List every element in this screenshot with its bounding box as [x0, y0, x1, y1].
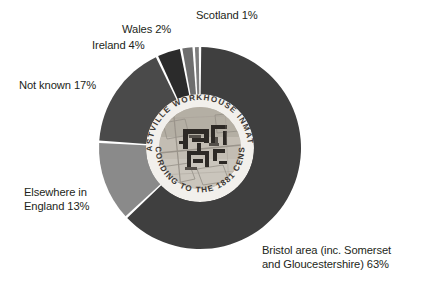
- slice-label-elsewhere-in-england: Elsewhere in England 13%: [24, 185, 114, 213]
- slice-label-bristol-line2: and Gloucestershire) 63%: [262, 257, 429, 271]
- slice-label-bristol-line1: Bristol area (inc. Somerset: [262, 243, 429, 257]
- slice-label-elsewhere-line2: England 13%: [24, 199, 114, 213]
- slice-label-not-known: Not known 17%: [19, 78, 96, 92]
- slice-label-ireland: Ireland 4%: [92, 38, 145, 52]
- center-badge: · EASTVILLE WORKHOUSE INMATES · ACCORDIN…: [146, 94, 254, 202]
- slice-label-bristol-area: Bristol area (inc. Somerset and Gloucest…: [262, 243, 429, 271]
- slice-label-wales: Wales 2%: [122, 22, 171, 36]
- slice-label-elsewhere-line1: Elsewhere in: [24, 185, 114, 199]
- badge-top-arc-textpath: · EASTVILLE WORKHOUSE INMATES ·: [146, 94, 254, 151]
- slice-label-scotland: Scotland 1%: [196, 8, 258, 22]
- pie-chart: Bristol area (inc. Somerset and Gloucest…: [0, 0, 429, 283]
- badge-arc-text: · EASTVILLE WORKHOUSE INMATES · ACCORDIN…: [146, 94, 254, 202]
- badge-top-arc-label: · EASTVILLE WORKHOUSE INMATES ·: [146, 94, 254, 151]
